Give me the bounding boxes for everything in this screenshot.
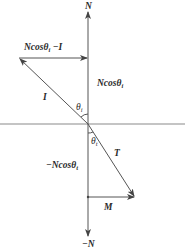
transmitted-vector-arrow xyxy=(88,124,134,196)
label-incident-angle: θi xyxy=(76,102,83,113)
junction-dot xyxy=(87,196,89,198)
transmitted-angle-arc xyxy=(88,132,93,133)
label-ncos-upper: Ncosθi xyxy=(96,78,123,89)
label-ncos-lower: −Ncosθt xyxy=(46,160,78,171)
incident-angle-arc xyxy=(81,114,88,117)
label-tangent-vector: M xyxy=(103,202,113,212)
label-incident-vector: I xyxy=(42,92,47,102)
label-ncos-minus-i: Ncosθi −I xyxy=(23,42,62,53)
label-transmitted-vector: T xyxy=(114,148,121,158)
label-normal-up: N xyxy=(84,1,93,11)
label-normal-down: −N xyxy=(82,239,96,249)
incident-vector-arrow xyxy=(20,59,88,124)
refraction-vector-diagram: N Ncosθi −I Ncosθi I θi θt T −Ncosθt M −… xyxy=(0,0,189,249)
